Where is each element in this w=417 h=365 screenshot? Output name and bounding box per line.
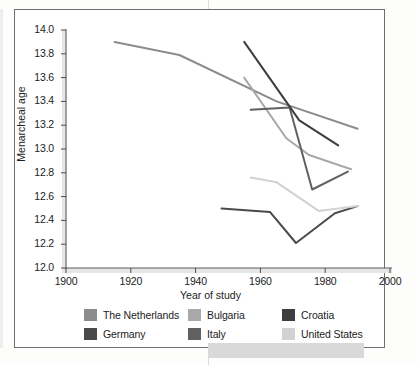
legend-item-bulgaria[interactable]: Bulgaria bbox=[188, 309, 282, 321]
legend-label: The Netherlands bbox=[103, 309, 179, 321]
legend-item-germany[interactable]: Germany bbox=[84, 328, 188, 340]
figure-container: Menarcheal age Year of study 14.013.813.… bbox=[0, 0, 417, 365]
y-tick-label: 13.2 bbox=[18, 118, 54, 130]
legend-swatch-icon bbox=[84, 328, 97, 340]
chart-legend: The NetherlandsBulgariaCroatiaGermanyIta… bbox=[84, 305, 372, 343]
y-tick-label: 14.0 bbox=[18, 23, 54, 35]
y-tick-label: 13.4 bbox=[18, 94, 54, 106]
series-line-the-netherlands bbox=[115, 42, 358, 129]
x-tick-label: 1940 bbox=[173, 275, 219, 287]
x-tick-label: 2000 bbox=[367, 275, 413, 287]
series-line-germany bbox=[222, 206, 358, 243]
legend-swatch-icon bbox=[188, 309, 201, 321]
series-line-united-states bbox=[251, 178, 358, 211]
y-tick-label: 12.4 bbox=[18, 213, 54, 225]
y-tick-label: 13.0 bbox=[18, 142, 54, 154]
y-tick-label: 13.8 bbox=[18, 47, 54, 59]
x-tick-label: 1920 bbox=[108, 275, 154, 287]
legend-label: Germany bbox=[103, 328, 145, 340]
y-tick-label: 12.6 bbox=[18, 190, 54, 202]
legend-label: United States bbox=[301, 328, 363, 340]
x-tick-label: 1900 bbox=[43, 275, 89, 287]
legend-swatch-icon bbox=[282, 328, 295, 340]
legend-swatch-icon bbox=[84, 309, 97, 321]
x-tick-label: 1960 bbox=[237, 275, 283, 287]
axes-group bbox=[61, 29, 392, 273]
series-group bbox=[115, 42, 358, 243]
y-tick-label: 13.6 bbox=[18, 71, 54, 83]
legend-label: Bulgaria bbox=[207, 309, 245, 321]
series-line-bulgaria bbox=[244, 78, 351, 170]
y-tick-label: 12.2 bbox=[18, 237, 54, 249]
y-tick-label: 12.0 bbox=[18, 261, 54, 273]
legend-swatch-icon bbox=[282, 309, 295, 321]
legend-item-united-states[interactable]: United States bbox=[282, 328, 378, 340]
x-tick-label: 1980 bbox=[302, 275, 348, 287]
legend-item-croatia[interactable]: Croatia bbox=[282, 309, 378, 321]
legend-label: Croatia bbox=[301, 309, 334, 321]
y-tick-label: 12.8 bbox=[18, 166, 54, 178]
legend-swatch-icon bbox=[188, 328, 201, 340]
x-axis-spine-fill bbox=[62, 268, 392, 273]
legend-item-the-netherlands[interactable]: The Netherlands bbox=[84, 309, 188, 321]
legend-item-italy[interactable]: Italy bbox=[188, 328, 282, 340]
legend-label: Italy bbox=[207, 328, 226, 340]
x-axis-title: Year of study bbox=[180, 289, 241, 301]
